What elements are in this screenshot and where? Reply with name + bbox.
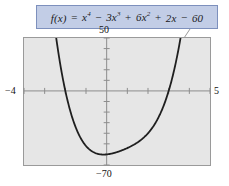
graph-figure: f(x) = x4 − 3x3 + 6x2 + 2x − 60 50 −70 −… — [0, 0, 229, 186]
callout-leader-line — [184, 29, 190, 38]
function-curve — [49, 0, 189, 155]
plot-vector-layer — [0, 0, 229, 186]
